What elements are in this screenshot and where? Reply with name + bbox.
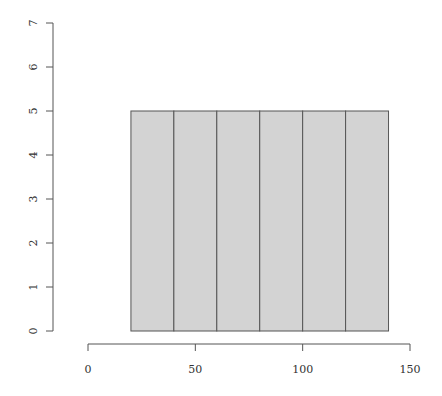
histogram-bar [131, 111, 174, 331]
x-tick-label: 50 [188, 363, 202, 376]
y-tick-label: 4 [27, 152, 40, 159]
bars [131, 111, 389, 331]
y-tick-label: 2 [27, 240, 40, 247]
histogram-bar [260, 111, 303, 331]
histogram-bar [174, 111, 217, 331]
histogram-chart: 01234567 050100150 [0, 0, 442, 396]
histogram-bar [217, 111, 260, 331]
x-axis: 050100150 [85, 344, 421, 376]
histogram-bar [303, 111, 346, 331]
y-tick-label: 7 [27, 20, 40, 27]
y-tick-label: 5 [27, 108, 40, 115]
y-tick-label: 6 [27, 64, 40, 71]
y-tick-label: 0 [27, 328, 40, 335]
histogram-bar [346, 111, 389, 331]
y-axis: 01234567 [27, 20, 54, 335]
y-tick-label: 3 [27, 196, 40, 203]
y-tick-label: 1 [27, 284, 40, 291]
x-tick-label: 100 [292, 363, 313, 376]
x-tick-label: 150 [400, 363, 421, 376]
x-tick-label: 0 [85, 363, 92, 376]
